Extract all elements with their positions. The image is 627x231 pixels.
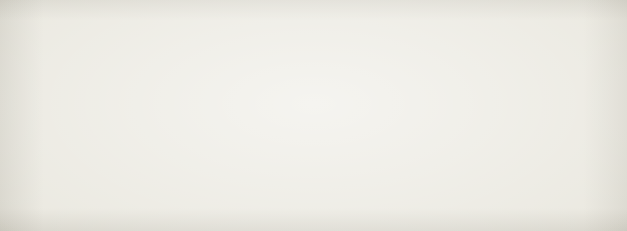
- year-label: 1991: [22, 64, 60, 81]
- legend-swatch-other-personnel: [168, 43, 262, 62]
- bar-segment-troops: 67,000: [60, 103, 314, 120]
- bar-value-troops: 33,000: [66, 83, 99, 100]
- un-cost-cell: US$1,330: [541, 83, 604, 100]
- year-label: 1995: [22, 141, 60, 158]
- bar-value-troops: 72,000: [66, 122, 99, 139]
- bar-segment-troops: 33,000: [60, 83, 187, 100]
- table-body: 19919,0005,00014,000US$380199233,00012,0…: [0, 64, 627, 218]
- column-header-year-label: ear: [22, 45, 37, 61]
- un-cost-label: US$3,400: [541, 122, 604, 139]
- table-row: 199561,00012,00073,000US$3,300: [0, 141, 627, 159]
- bar-segment-troops: 15,000: [60, 199, 119, 216]
- year-cell: 1992: [22, 83, 60, 100]
- bar-value-troops: 9,000: [66, 64, 93, 81]
- bar-value-other-personnel: 7,000: [180, 160, 207, 177]
- year-label: 1997: [22, 180, 60, 197]
- column-header-un-costs-label: UN Costs: [545, 45, 597, 61]
- year-cell: 1996: [22, 160, 60, 177]
- bar-value-troops: 21,000: [66, 160, 99, 177]
- year-label: 1993: [22, 103, 60, 120]
- bar-value-other-personnel: 13,000: [398, 122, 431, 139]
- year-cell: 1993: [22, 103, 60, 120]
- column-header-un-costs: UN Costs: [541, 43, 604, 62]
- bar-segment-other-personnel: [292, 141, 340, 158]
- bar-value-troops: 61,000: [66, 141, 99, 158]
- bar-segment-other-personnel: [337, 122, 389, 139]
- bar-value-other-personnel: 10,000: [187, 180, 220, 197]
- year-cell: 1991: [22, 64, 60, 81]
- table-row: 199720,00010,00030,000US$1,300: [0, 180, 627, 198]
- bar-segment-troops: 72,000: [60, 122, 337, 139]
- un-cost-cell: US$1,600: [541, 160, 604, 177]
- un-cost-label: US$1,330: [541, 83, 604, 100]
- legend-swatch-troops: Troops: [63, 43, 168, 62]
- table-title-band: able 42 Average strength and cost of UN …: [25, 7, 592, 32]
- bar-value-troops: 20,000: [66, 180, 99, 197]
- un-cost-label: US$1,000: [541, 199, 604, 216]
- un-cost-cell: US$3,000: [541, 103, 604, 120]
- year-label: 1996: [22, 160, 60, 177]
- table-row: 199472,00013,00085,000US$3,400: [0, 122, 627, 140]
- table-row: 199367,00022,00089,000US$3,000: [0, 103, 627, 121]
- year-cell: 1995: [22, 141, 60, 158]
- column-header-year: ear: [22, 43, 60, 62]
- bar-segment-other-personnel: [314, 103, 400, 120]
- un-cost-cell: US$1,000: [541, 199, 604, 216]
- bar-segment-other-personnel: [119, 199, 155, 216]
- year-cell: 1998: [22, 199, 60, 216]
- table-row: 199621,0007,00028,000US$1,600: [0, 160, 627, 178]
- year-cell: 1994: [22, 122, 60, 139]
- year-label: 1998: [22, 199, 60, 216]
- year-label: 1994: [22, 122, 60, 139]
- bar-value-other-personnel: 12,000: [349, 141, 382, 158]
- un-cost-cell: US$380: [541, 64, 604, 81]
- table-title: able 42 Average strength and cost of UN …: [25, 10, 499, 25]
- bar-segment-troops: 61,000: [60, 141, 292, 158]
- bar-segment-troops: 20,000: [60, 180, 138, 197]
- bar-value-other-personnel: 9,000: [164, 199, 191, 216]
- un-cost-label: US$1,300: [541, 180, 604, 197]
- un-cost-label: US$1,600: [541, 160, 604, 177]
- bar-value-troops: 15,000: [66, 199, 99, 216]
- un-cost-cell: US$3,300: [541, 141, 604, 158]
- bar-value-other-personnel: 12,000: [244, 83, 277, 100]
- year-cell: 1997: [22, 180, 60, 197]
- un-cost-label: US$380: [541, 64, 604, 81]
- un-cost-label: US$3,300: [541, 141, 604, 158]
- bar-segment-other-personnel: [142, 160, 171, 177]
- bar-segment-other-personnel: [97, 64, 113, 81]
- bar-segment-other-personnel: [138, 180, 178, 197]
- table-row: 199233,00012,00045,000US$1,330: [0, 83, 627, 101]
- bar-segment-troops: 21,000: [60, 160, 142, 177]
- table-row: 19919,0005,00014,000US$380: [0, 64, 627, 82]
- bar-value-other-personnel: 22,000: [409, 103, 442, 120]
- bar-value-troops: 67,000: [66, 103, 99, 120]
- un-cost-label: US$3,000: [541, 103, 604, 120]
- legend-label-troops: Troops: [70, 45, 106, 61]
- year-label: 1992: [22, 83, 60, 100]
- bar-segment-troops: 9,000: [60, 64, 97, 81]
- un-cost-cell: US$3,400: [541, 122, 604, 139]
- bar-value-other-personnel: 5,000: [122, 64, 149, 81]
- table-row: 199815,0009,00024,000US$1,000: [0, 199, 627, 217]
- legend-label-other-personnel: Other UN Personnel: [266, 45, 379, 61]
- un-cost-cell: US$1,300: [541, 180, 604, 197]
- table-header-row: ear Troops Other UN Personnel Total UN C…: [0, 43, 627, 63]
- bar-segment-other-personnel: [187, 83, 235, 100]
